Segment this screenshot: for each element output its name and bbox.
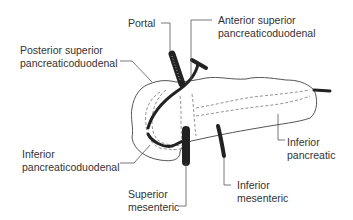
label-anterior-superior-pd: Anterior superior pancreaticoduodenal — [218, 14, 316, 39]
leader-posterior — [120, 61, 152, 82]
leader-superior-mesenteric — [179, 163, 186, 206]
label-inferior-mesenteric: Inferior mesenteric — [237, 179, 288, 204]
portal-vein — [172, 54, 182, 84]
label-posterior-superior-pd: Posterior superior pancreaticoduodenal — [20, 44, 118, 69]
inferior-mesenteric-vessel — [218, 126, 224, 156]
vertical-dashed-2 — [192, 94, 196, 136]
label-inferior-pd: Inferior pancreaticoduodenal — [22, 148, 120, 173]
label-inferior-pancreatic: Inferior pancreatic — [287, 136, 335, 161]
inferior-pancreatic-dashed — [196, 96, 310, 116]
vertical-dashed-1 — [180, 96, 182, 140]
label-portal: Portal — [128, 17, 155, 30]
splenic-vessel — [314, 90, 330, 91]
pancreas-vessel-diagram: Portal Anterior superior pancreaticoduod… — [0, 0, 353, 220]
label-superior-mesenteric: Superior mesenteric — [128, 188, 179, 213]
leader-portal — [161, 23, 170, 52]
leader-inferior-pd — [120, 145, 150, 163]
leader-inferior-mesenteric — [224, 157, 231, 185]
pancreatic-duct-dashed — [196, 90, 310, 108]
